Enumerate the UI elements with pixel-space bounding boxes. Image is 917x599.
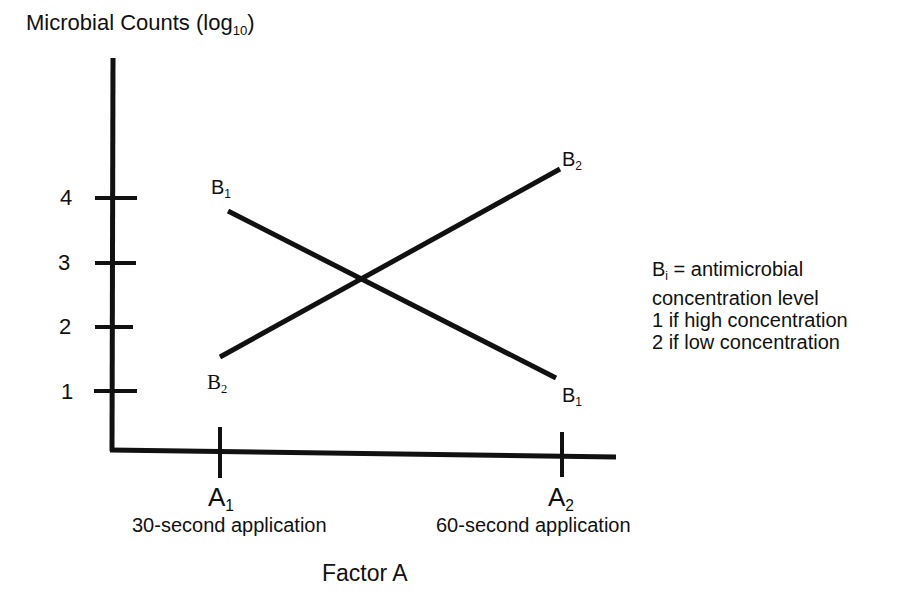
legend-line-3: 1 if high concentration — [652, 309, 848, 331]
y-tick-label-2: 2 — [59, 314, 71, 340]
x-category-a1: A1 — [208, 482, 234, 515]
x-axis-title: Factor A — [322, 560, 408, 587]
legend-line-2: concentration level — [652, 287, 848, 309]
label-b2-at-a2: B2 — [562, 148, 582, 173]
series-b2-line — [220, 169, 560, 357]
y-tick-label-1: 1 — [61, 379, 73, 405]
x-category-a2-description: 60-second application — [436, 514, 631, 537]
y-tick-label-3: 3 — [58, 250, 70, 276]
y-axis-title: Microbial Counts (log10) — [26, 10, 255, 38]
series-b1-line — [228, 211, 556, 378]
x-category-a2: A2 — [548, 482, 574, 515]
x-category-a1-description: 30-second application — [132, 514, 327, 537]
legend-line-4: 2 if low concentration — [652, 331, 848, 353]
label-b1-at-a2: B1 — [562, 384, 582, 409]
label-b1-at-a1: B1 — [211, 176, 231, 201]
legend: Bi = antimicrobial concentration level 1… — [652, 258, 848, 353]
y-tick-label-4: 4 — [60, 185, 72, 211]
y-ticks — [94, 198, 137, 391]
legend-line-1: Bi = antimicrobial — [652, 258, 848, 287]
label-b2-at-a1: B2 — [207, 370, 227, 397]
x-axis — [110, 450, 616, 457]
